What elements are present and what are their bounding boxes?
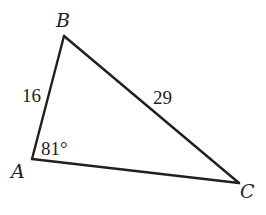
side-ab-length: 16 xyxy=(22,85,41,106)
triangle-diagram: B A C 16 29 81° xyxy=(0,0,266,215)
vertex-label-c: C xyxy=(240,180,255,202)
side-bc-length: 29 xyxy=(153,87,172,108)
vertex-label-a: A xyxy=(9,160,25,182)
side-ac xyxy=(32,159,239,183)
vertex-label-b: B xyxy=(55,9,70,31)
angle-a-measure: 81° xyxy=(41,138,68,159)
side-bc xyxy=(64,36,239,183)
